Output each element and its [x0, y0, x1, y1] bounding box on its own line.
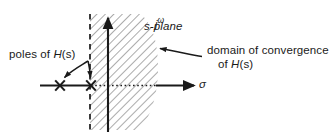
real-axis-label: σ: [199, 78, 206, 92]
poles-label-prefix: poles of: [9, 48, 53, 60]
domain-label-line2-prefix: of: [218, 58, 231, 70]
domain-label-line2-arg: (s): [240, 58, 254, 70]
poles-label-arg: (s): [62, 48, 76, 60]
domain-leader-arrow: [160, 49, 202, 57]
domain-of-convergence-label: domain of convergenceof H(s): [207, 44, 329, 71]
domain-label-line2: of H(s): [207, 58, 329, 72]
domain-label-line1: domain of convergence: [207, 44, 329, 56]
poles-label: poles of H(s): [9, 48, 76, 62]
imaginary-axis-label-omega: ω: [157, 15, 164, 25]
poles-leader-arrow-left: [65, 61, 89, 78]
poles-label-function: H: [53, 48, 61, 60]
figure-container: poles of H(s) s-plane domain of converge…: [0, 0, 333, 137]
domain-label-line2-function: H: [231, 58, 239, 70]
imaginary-axis-label: jω: [155, 15, 164, 31]
